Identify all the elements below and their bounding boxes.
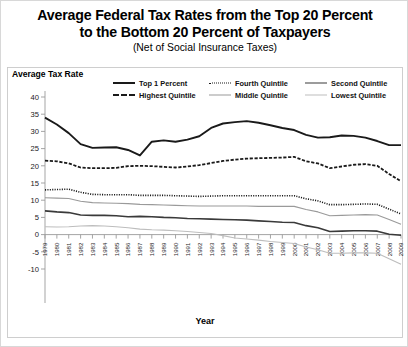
legend-item-lowest-quintile[interactable]: Lowest Quintile — [305, 91, 403, 100]
x-tick-label: 1989 — [160, 242, 167, 256]
chart-page: Average Federal Tax Rates from the Top 2… — [0, 0, 408, 347]
x-tick-label: 1996 — [243, 242, 250, 256]
x-tick-label: 1980 — [53, 242, 60, 256]
y-tick-label: 10 — [31, 196, 39, 205]
x-tick-label: 1987 — [136, 242, 143, 256]
x-tick-label: 1993 — [208, 242, 215, 256]
x-tick-label: 1986 — [124, 242, 131, 256]
y-tick-label: 30 — [31, 127, 39, 136]
x-tick-label: 1992 — [196, 242, 203, 256]
legend-item-fourth-quintile[interactable]: Fourth Quintile — [209, 79, 305, 88]
x-tick-label: 2006 — [362, 242, 369, 256]
x-tick-label: 2003 — [326, 242, 333, 256]
x-tick-label: 2004 — [338, 242, 345, 256]
legend-item-label: Lowest Quintile — [331, 91, 386, 100]
y-tick-label: 25 — [31, 144, 39, 153]
x-tick-label: 1994 — [219, 242, 226, 256]
x-tick-label: 2000 — [291, 242, 298, 256]
x-tick-label: 1984 — [101, 242, 108, 256]
x-tick-label: 2001 — [302, 242, 309, 256]
page-subtitle: (Net of Social Insurance Taxes) — [1, 41, 408, 55]
y-tick-label: 35 — [31, 110, 39, 119]
legend-item-middle-quintile[interactable]: Middle Quintile — [209, 91, 305, 100]
legend-swatch-icon — [209, 80, 231, 87]
legend-swatch-icon — [209, 92, 231, 99]
x-tick-label: 1979 — [41, 242, 48, 256]
legend-item-label: Second Quintile — [331, 79, 387, 88]
page-title-line-1: Average Federal Tax Rates from the Top 2… — [1, 7, 408, 24]
legend-swatch-icon — [305, 80, 327, 87]
y-tick-label: 15 — [31, 179, 39, 188]
x-tick-label: 1990 — [172, 242, 179, 256]
x-tick-label: 2009 — [397, 242, 404, 256]
x-tick-label: 1995 — [231, 242, 238, 256]
series-line-highest-quintile — [45, 157, 401, 181]
x-tick-label: 2008 — [386, 242, 393, 256]
x-tick-label: 1982 — [77, 242, 84, 256]
series-line-fourth-quintile — [45, 189, 401, 214]
x-tick-label: 1998 — [267, 242, 274, 256]
x-tick-label: 1983 — [89, 242, 96, 256]
y-tick-label: -5 — [32, 248, 39, 257]
x-tick-label: 1999 — [279, 242, 286, 256]
series-line-middle-quintile — [45, 198, 401, 224]
y-tick-label: 5 — [35, 213, 39, 222]
legend-item-label: Top 1 Percent — [139, 79, 187, 88]
legend-item-label: Highest Quintile — [139, 91, 196, 100]
x-axis-title: Year — [1, 316, 408, 326]
chart-legend: Top 1 PercentFourth QuintileSecond Quint… — [113, 77, 403, 101]
y-tick-label: -10 — [28, 265, 39, 274]
page-title-line-2: to the Bottom 20 Percent of Taxpayers — [1, 24, 408, 41]
chart-title-block: Average Federal Tax Rates from the Top 2… — [1, 7, 408, 55]
legend-item-label: Fourth Quintile — [235, 79, 288, 88]
legend-swatch-icon — [305, 92, 327, 99]
x-tick-label: 1991 — [184, 242, 191, 256]
x-tick-label: 2005 — [350, 242, 357, 256]
series-line-lowest-quintile — [45, 226, 401, 265]
legend-item-label: Middle Quintile — [235, 91, 288, 100]
y-tick-label: 0 — [35, 230, 39, 239]
series-line-top-1-percent — [45, 118, 401, 156]
series-line-second-quintile — [45, 211, 401, 235]
legend-item-top-1-percent[interactable]: Top 1 Percent — [113, 79, 209, 88]
x-tick-label: 1997 — [255, 242, 262, 256]
legend-item-highest-quintile[interactable]: Highest Quintile — [113, 91, 209, 100]
x-tick-label: 1988 — [148, 242, 155, 256]
x-tick-label: 1981 — [65, 242, 72, 256]
legend-swatch-icon — [113, 92, 135, 99]
x-tick-label: 2002 — [314, 242, 321, 256]
y-axis-title: Average Tax Rate — [12, 69, 83, 79]
legend-item-second-quintile[interactable]: Second Quintile — [305, 79, 403, 88]
y-tick-label: 40 — [31, 93, 39, 102]
plot-frame — [8, 68, 403, 338]
y-tick-label: 20 — [31, 162, 39, 171]
x-tick-label: 1985 — [113, 242, 120, 256]
x-tick-label: 2007 — [374, 242, 381, 256]
legend-swatch-icon — [113, 80, 135, 87]
